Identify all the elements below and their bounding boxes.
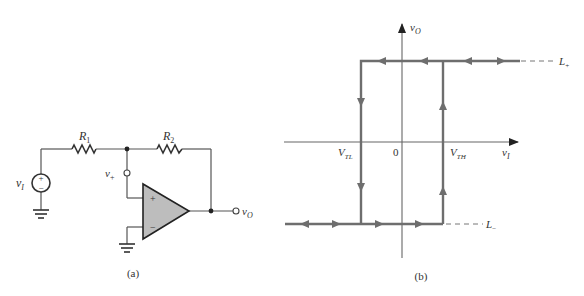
label-vth: VTH: [450, 146, 467, 161]
arrow-up-icon: [439, 186, 447, 195]
arrow-right-icon: [332, 220, 341, 228]
label-y-axis: vO: [410, 21, 421, 36]
arrow-right-icon: [497, 57, 506, 65]
figure-canvas: + − + − R1 R2 vI v+ vO (a): [0, 0, 584, 296]
vplus-terminal: [124, 170, 130, 176]
ground-icon: [119, 244, 135, 252]
label-r2: R2: [162, 129, 174, 145]
label-x-axis: vI: [502, 146, 510, 161]
label-vtl: VTL: [338, 146, 353, 161]
arrow-left-icon: [463, 57, 472, 65]
opamp-minus-sign: −: [150, 222, 156, 233]
junction-node: [125, 147, 130, 152]
source-minus-sign: −: [38, 183, 43, 193]
label-vi: vI: [16, 176, 24, 192]
label-lplus: L+: [558, 55, 569, 70]
label-origin: 0: [393, 146, 399, 158]
arrow-down-icon: [357, 98, 365, 107]
label-lminus: L−: [485, 218, 496, 233]
resistor-r2: [157, 145, 182, 153]
junction-node: [209, 209, 214, 214]
caption-a: (a): [127, 267, 140, 280]
resistor-r1: [72, 145, 96, 153]
arrow-up-icon: [439, 101, 447, 110]
arrow-left-icon: [377, 57, 386, 65]
arrow-left-icon: [419, 57, 428, 65]
label-vo: vO: [242, 205, 253, 220]
label-vplus: v+: [105, 167, 115, 182]
arrow-down-icon: [357, 183, 365, 192]
ground-icon: [33, 210, 49, 218]
source-plus-sign: +: [38, 173, 43, 183]
arrow-left-icon: [300, 220, 309, 228]
arrow-right-icon: [375, 220, 384, 228]
vo-terminal: [233, 208, 239, 214]
caption-b: (b): [415, 270, 428, 283]
label-r1: R1: [78, 129, 90, 145]
circuit-schematic: [41, 145, 233, 244]
opamp-plus-sign: +: [150, 193, 156, 204]
arrow-right-icon: [415, 220, 424, 228]
